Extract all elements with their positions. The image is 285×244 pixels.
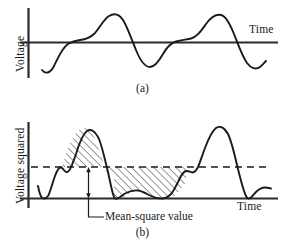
panel-b-caption: (b) [0,226,285,238]
mean-square-value-label: Mean-square value [105,210,193,222]
panel-b: Voltage squared Time Mean-square value (… [0,110,285,244]
panel-b-plot [0,110,285,244]
panel-b-x-axis-label: Time [237,200,262,212]
panel-a-y-axis-label: Voltage [14,36,26,72]
panel-a-x-axis-label: Time [249,23,274,35]
hatched-region-above-mean [55,120,125,172]
panel-b-y-axis-label: Voltage squared [14,127,26,204]
mean-square-leader-line [89,199,105,218]
panel-a: Voltage Time (a) [0,0,285,122]
panel-a-plot [0,0,285,122]
figure-root: Voltage Time (a) [0,0,285,244]
mean-square-arrow-head-up [86,167,90,172]
panel-a-caption: (a) [0,82,285,94]
